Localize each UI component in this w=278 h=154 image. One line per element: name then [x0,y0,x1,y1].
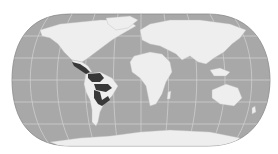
world-map [0,0,278,154]
